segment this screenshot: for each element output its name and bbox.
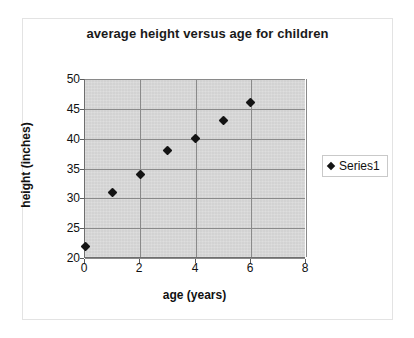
legend-item-label: Series1: [339, 159, 380, 173]
y-tick-mark: [80, 139, 84, 140]
x-axis-title: age (years): [84, 288, 305, 302]
x-axis-tick-labels: 02468: [84, 262, 305, 280]
x-tick-mark: [305, 259, 306, 263]
data-point-marker: [218, 116, 228, 126]
gridline-horizontal: [85, 109, 305, 110]
y-tick-mark: [80, 198, 84, 199]
data-point-marker: [108, 187, 118, 197]
x-tick-mark: [195, 259, 196, 263]
legend-marker-icon: [327, 162, 335, 170]
y-tick-label: 30: [46, 192, 80, 204]
y-tick-label: 45: [46, 103, 80, 115]
gridline-horizontal: [85, 79, 305, 80]
y-tick-label: 40: [46, 133, 80, 145]
y-tick-mark: [80, 228, 84, 229]
gridline-horizontal: [85, 228, 305, 229]
x-tick-mark: [139, 259, 140, 263]
x-tick-label: 0: [69, 262, 99, 274]
gridline-vertical: [140, 79, 141, 257]
y-tick-mark: [80, 169, 84, 170]
data-point-marker: [163, 146, 173, 156]
x-tick-mark: [84, 259, 85, 263]
y-axis-tick-labels: 20253035404550: [44, 79, 80, 258]
x-tick-label: 4: [180, 262, 210, 274]
data-point-marker: [246, 98, 256, 108]
gridline-vertical: [306, 79, 307, 257]
gridline-horizontal: [85, 198, 305, 199]
y-tick-label: 25: [46, 222, 80, 234]
data-point-marker: [135, 170, 145, 180]
x-tick-mark: [250, 259, 251, 263]
gridline-horizontal: [85, 169, 305, 170]
plot-area: [84, 79, 305, 258]
x-tick-label: 6: [235, 262, 265, 274]
y-tick-mark: [80, 109, 84, 110]
x-tick-label: 2: [124, 262, 154, 274]
x-tick-label: 8: [290, 262, 320, 274]
plot-background-texture: [85, 79, 305, 257]
chart-screenshot: average height versus age for children 2…: [0, 0, 414, 338]
y-axis-title: height (inches): [19, 95, 33, 235]
gridline-vertical: [196, 79, 197, 257]
data-point-marker: [191, 134, 201, 144]
y-tick-label: 35: [46, 163, 80, 175]
chart-legend: Series1: [322, 155, 388, 177]
chart-title: average height versus age for children: [22, 26, 393, 41]
y-tick-label: 50: [46, 73, 80, 85]
y-tick-mark: [80, 79, 84, 80]
